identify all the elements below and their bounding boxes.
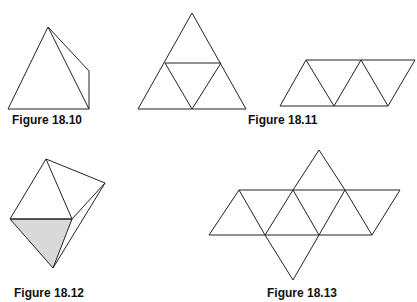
- caption-fig-18-11: Figure 18.11: [248, 113, 317, 127]
- octahedron-net: [209, 150, 400, 280]
- octahedron-drawing: [10, 159, 105, 268]
- figure-page: Figure 18.10 Figure 18.11 Figure 18.12 F…: [0, 0, 417, 302]
- geometry-figures: [0, 0, 417, 302]
- triangle-strip-net: [280, 60, 415, 106]
- subdivided-triangle-net: [138, 13, 246, 109]
- caption-fig-18-13: Figure 18.13: [267, 286, 337, 300]
- tetrahedron-drawing: [8, 27, 89, 109]
- caption-fig-18-12: Figure 18.12: [14, 286, 84, 300]
- caption-fig-18-10: Figure 18.10: [12, 113, 82, 127]
